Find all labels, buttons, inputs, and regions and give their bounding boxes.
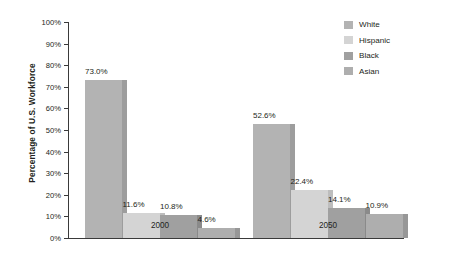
y-tick-label: 100% xyxy=(42,18,61,27)
bar-value-label: 52.6% xyxy=(253,111,276,120)
y-axis-line xyxy=(68,22,69,238)
legend-item[interactable]: Hispanic xyxy=(344,33,448,49)
bar-side-shadow xyxy=(235,228,240,238)
y-tick-label: 20% xyxy=(46,190,61,199)
bar-value-label: 22.4% xyxy=(291,177,314,186)
bar: 73.0% xyxy=(85,80,122,238)
legend-swatch-icon xyxy=(344,21,353,29)
y-tick-label: 0% xyxy=(50,234,61,243)
legend-swatch-icon xyxy=(344,67,353,75)
y-tick-label: 10% xyxy=(46,212,61,221)
y-tick-label: 40% xyxy=(46,147,61,156)
y-tick-label: 80% xyxy=(46,61,61,70)
y-tick-mark xyxy=(64,173,68,174)
y-tick-mark xyxy=(64,44,68,45)
legend-item[interactable]: White xyxy=(344,17,448,33)
bar-face xyxy=(85,80,122,238)
y-tick-label: 50% xyxy=(46,126,61,135)
legend-swatch-icon xyxy=(344,52,353,60)
bar: 22.4% xyxy=(291,190,328,238)
x-axis-line xyxy=(65,238,404,239)
legend-label: Hispanic xyxy=(359,36,390,45)
bar-value-label: 10.8% xyxy=(160,202,183,211)
legend-item[interactable]: Black xyxy=(344,48,448,64)
legend-label: White xyxy=(359,20,380,29)
y-tick-mark xyxy=(64,238,68,239)
bar-value-label: 73.0% xyxy=(85,67,108,76)
bar-value-label: 10.9% xyxy=(366,201,389,210)
legend-label: Asian xyxy=(359,67,379,76)
bar-face xyxy=(291,190,328,238)
y-tick-label: 70% xyxy=(46,82,61,91)
legend-swatch-icon xyxy=(344,36,353,44)
bar-chart: Percentage of U.S. Workforce 0%10%20%30%… xyxy=(0,0,452,273)
y-tick-mark xyxy=(64,87,68,88)
y-tick-mark xyxy=(64,65,68,66)
y-tick-label: 90% xyxy=(46,39,61,48)
y-tick-mark xyxy=(64,22,68,23)
y-axis-title: Percentage of U.S. Workforce xyxy=(27,28,37,218)
legend-item[interactable]: Asian xyxy=(344,64,448,80)
y-tick-mark xyxy=(64,195,68,196)
legend: WhiteHispanicBlackAsian xyxy=(344,17,448,79)
bar-value-label: 11.6% xyxy=(123,200,145,209)
y-tick-mark xyxy=(64,216,68,217)
y-tick-label: 30% xyxy=(46,169,61,178)
bar-side-shadow xyxy=(403,214,408,238)
legend-label: Black xyxy=(359,51,379,60)
y-tick-mark xyxy=(64,152,68,153)
x-axis-label: 2050 xyxy=(253,221,403,230)
y-tick-mark xyxy=(64,108,68,109)
bar-value-label: 14.1% xyxy=(328,195,351,204)
y-tick-label: 60% xyxy=(46,104,61,113)
x-axis-label: 2000 xyxy=(85,221,235,230)
y-tick-mark xyxy=(64,130,68,131)
